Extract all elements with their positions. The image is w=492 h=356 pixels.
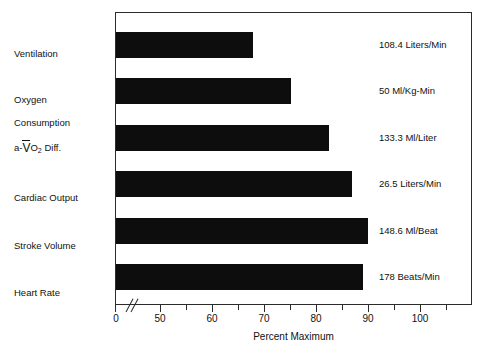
axis-break-icon: [125, 298, 143, 314]
x-tick-90: [368, 305, 369, 312]
category-label-line1: Cardiac Output: [14, 192, 78, 203]
plot-area: 108.4 Liters/Min 50 Ml/Kg-Min 133.3 Ml/L…: [115, 12, 472, 305]
bar-oxygen-consumption: [116, 78, 291, 104]
bar-stroke-volume: [116, 218, 368, 244]
avo2-letter-o: O: [30, 142, 37, 153]
value-label-stroke-volume: 148.6 Ml/Beat: [379, 225, 438, 236]
x-tick-label-60: 60: [206, 313, 217, 325]
x-tick-minor-105: [446, 305, 447, 310]
x-tick-label-90: 90: [362, 313, 373, 325]
x-axis-title: Percent Maximum: [115, 331, 472, 342]
x-tick-70: [264, 305, 265, 312]
bar-ventilation: [116, 32, 253, 58]
avo2-expression: a-VO2 Diff.: [14, 142, 61, 153]
value-label-avo2-diff: 133.3 Ml/Liter: [379, 132, 437, 143]
x-tick-0: [115, 305, 116, 312]
category-label-ventilation: Ventilation: [14, 36, 112, 59]
bar-cardiac-output: [116, 171, 352, 197]
category-label-stroke-volume: Stroke Volume: [14, 228, 112, 251]
category-label-cardiac-output: Cardiac Output: [14, 180, 112, 203]
x-tick-80: [316, 305, 317, 312]
bar-chart-figure: Ventilation Oxygen Consumption a-VO2 Dif…: [0, 0, 492, 356]
x-tick-minor-95: [394, 305, 395, 310]
x-tick-label-100: 100: [412, 313, 429, 325]
x-tick-minor-65: [238, 305, 239, 310]
category-label-heart-rate: Heart Rate: [14, 275, 112, 298]
x-tick-label-70: 70: [258, 313, 269, 325]
x-tick-label-80: 80: [310, 313, 321, 325]
x-tick-100: [420, 305, 421, 312]
x-tick-label-0: 0: [113, 313, 119, 325]
x-tick-label-50: 50: [154, 313, 165, 325]
x-tick-minor-55: [186, 305, 187, 310]
category-label-line1: Oxygen: [14, 94, 112, 106]
value-label-oxygen-consumption: 50 Ml/Kg-Min: [379, 85, 435, 96]
x-tick-minor-75: [290, 305, 291, 310]
avo2-overbar-v: V: [22, 142, 30, 154]
bar-avo2-diff: [116, 125, 329, 151]
x-tick-minor-85: [342, 305, 343, 310]
category-label-line1: Heart Rate: [14, 287, 60, 298]
value-label-heart-rate: 178 Beats/Min: [379, 271, 440, 282]
avo2-prefix: a-: [14, 142, 22, 153]
category-label-line1: Stroke Volume: [14, 240, 76, 251]
avo2-suffix: Diff.: [42, 142, 61, 153]
x-tick-50: [160, 305, 161, 312]
category-label-line1: Ventilation: [14, 48, 58, 59]
x-axis: 0 50 60 70 80 90 100: [115, 305, 472, 317]
value-label-ventilation: 108.4 Liters/Min: [379, 39, 447, 50]
bar-heart-rate: [116, 264, 363, 290]
category-label-line2: Consumption: [14, 117, 112, 129]
value-label-cardiac-output: 26.5 Liters/Min: [379, 178, 441, 189]
x-tick-60: [212, 305, 213, 312]
category-label-avo2-diff: a-VO2 Diff.: [14, 130, 112, 156]
